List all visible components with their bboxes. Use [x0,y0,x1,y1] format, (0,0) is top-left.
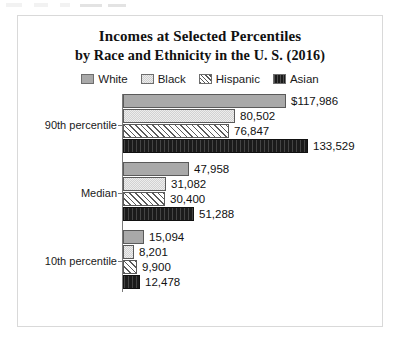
chart-title-block: Incomes at Selected Percentiles by Race … [18,16,382,65]
bar-rect-asian [123,275,140,289]
legend-swatch-black-icon [141,74,154,84]
bar-value-black-90th: 80,502 [235,109,275,123]
bar-value-hispanic-10th: 9,900 [137,260,171,274]
bar-rect-hispanic [123,260,137,274]
bar-value-asian-10th: 12,478 [140,275,180,289]
bar-rect-asian [123,139,308,153]
bar-rect-asian [123,207,194,221]
chart-legend: White Black Hispanic Asian [18,73,382,85]
plot-area: 90th percentile $117,986 80,502 76,847 1… [18,94,382,299]
legend-label-hispanic: Hispanic [216,73,260,85]
bar-value-white-90th: $117,986 [286,94,338,108]
top-strip-fragment [60,3,70,7]
top-strip-fragment-underlined [108,4,126,7]
legend-label-black: Black [158,73,186,85]
bar-rect-hispanic [123,192,165,206]
legend-item-black[interactable]: Black [141,73,186,85]
bar-rect-white [123,162,189,176]
legend-label-asian: Asian [290,73,319,85]
bar-rect-black [123,245,134,259]
bar-rect-white [123,94,286,108]
bar-group-median: Median 47,958 31,082 30,400 51,288 [18,162,382,225]
bar-rect-white [123,230,144,244]
cropped-top-strip [0,0,401,10]
bar-value-white-10th: 15,094 [144,230,184,244]
bar-value-hispanic-median: 30,400 [165,192,205,206]
legend-item-asian[interactable]: Asian [273,73,319,85]
top-strip-fragment [34,3,48,7]
legend-item-hispanic[interactable]: Hispanic [199,73,260,85]
bar-value-white-median: 47,958 [189,162,229,176]
bar-rect-black [123,109,235,123]
screenshot-root: Incomes at Selected Percentiles by Race … [0,0,401,349]
top-strip-fragment [6,3,22,7]
legend-swatch-asian-icon [273,74,286,84]
legend-label-white: White [98,73,127,85]
legend-swatch-hispanic-icon [199,74,212,84]
bar-group-10th-percentile: 10th percentile 15,094 8,201 9,900 12,47… [18,230,382,293]
chart-title: Incomes at Selected Percentiles [18,27,382,46]
bar-rect-black [123,177,166,191]
legend-swatch-white-icon [81,74,94,84]
bar-group-90th-percentile: 90th percentile $117,986 80,502 76,847 1… [18,94,382,157]
bar-value-hispanic-90th: 76,847 [229,124,269,138]
top-strip-fragment-underlined [80,4,102,7]
bar-rect-hispanic [123,124,229,138]
category-label-90th-percentile: 90th percentile [18,119,117,131]
bar-value-black-median: 31,082 [166,177,206,191]
chart-subtitle: by Race and Ethnicity in the U. S. (2016… [18,46,382,65]
bar-value-black-10th: 8,201 [134,245,168,259]
category-label-median: Median [18,187,117,199]
bar-value-asian-90th: 133,529 [308,139,355,153]
chart-container: Incomes at Selected Percentiles by Race … [17,15,383,327]
category-label-10th-percentile: 10th percentile [18,255,117,267]
bar-value-asian-median: 51,288 [194,207,234,221]
legend-item-white[interactable]: White [81,73,127,85]
